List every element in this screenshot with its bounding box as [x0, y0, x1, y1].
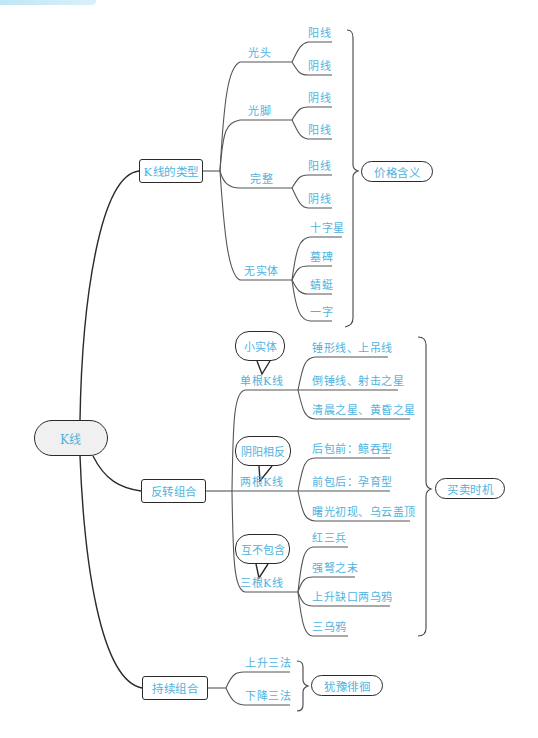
item-falling-three-methods[interactable]: 下降三法 — [245, 690, 291, 704]
item-label[interactable]: 墓碑 — [310, 251, 333, 265]
callout-opposite-colors: 阴阳相反 — [235, 436, 291, 466]
item-label[interactable]: 阴线 — [308, 193, 331, 207]
group-single-k[interactable]: 单根K线 — [240, 375, 283, 389]
item-label[interactable]: 阴线 — [308, 92, 331, 106]
item-label[interactable]: 前包后：孕育型 — [312, 476, 393, 490]
item-label[interactable]: 倒锤线、射击之星 — [312, 375, 404, 389]
item-label[interactable]: 蜻蜓 — [310, 279, 333, 293]
item-label[interactable]: 上升缺口两乌鸦 — [312, 591, 393, 605]
item-label[interactable]: 一字 — [310, 306, 333, 320]
group-two-k[interactable]: 两根K线 — [240, 476, 283, 490]
root-node[interactable]: K线 — [34, 420, 108, 456]
item-label[interactable]: 阳线 — [308, 27, 331, 41]
item-label[interactable]: 强弩之末 — [312, 562, 358, 576]
item-label[interactable]: 曙光初现、乌云盖顶 — [312, 506, 416, 520]
mind-map: K线 K线的类型 反转组合 持续组合 价格含义 买卖时机 犹豫徘徊 光头 阳线 … — [0, 0, 538, 738]
branch-k-line-types[interactable]: K线的类型 — [139, 159, 203, 183]
callout-non-inclusive: 互不包含 — [235, 534, 290, 564]
item-label[interactable]: 阳线 — [308, 124, 331, 138]
group-complete[interactable]: 完整 — [250, 173, 273, 187]
item-rising-three-methods[interactable]: 上升三法 — [245, 657, 291, 671]
item-label[interactable]: 十字星 — [310, 222, 345, 236]
branch-reversal-combination[interactable]: 反转组合 — [141, 479, 206, 503]
item-label[interactable]: 阳线 — [308, 160, 331, 174]
summary-hesitation[interactable]: 犹豫徘徊 — [311, 675, 383, 696]
group-three-k[interactable]: 三根K线 — [240, 577, 283, 591]
summary-trade-timing[interactable]: 买卖时机 — [435, 478, 505, 499]
item-label[interactable]: 红三兵 — [312, 532, 347, 546]
item-label[interactable]: 锤形线、上吊线 — [312, 342, 393, 356]
callout-small-body: 小实体 — [235, 331, 285, 361]
group-bald-top[interactable]: 光头 — [248, 47, 271, 61]
item-label[interactable]: 清晨之星、黄昏之星 — [312, 404, 416, 418]
item-label[interactable]: 后包前：鲸吞型 — [312, 443, 393, 457]
branch-continuation-combination[interactable]: 持续组合 — [142, 676, 208, 700]
summary-price-meaning[interactable]: 价格含义 — [361, 161, 433, 182]
group-no-body[interactable]: 无实体 — [244, 265, 279, 279]
item-label[interactable]: 阴线 — [308, 60, 331, 74]
group-bald-bottom[interactable]: 光脚 — [248, 105, 271, 119]
item-label[interactable]: 三乌鸦 — [312, 621, 347, 635]
